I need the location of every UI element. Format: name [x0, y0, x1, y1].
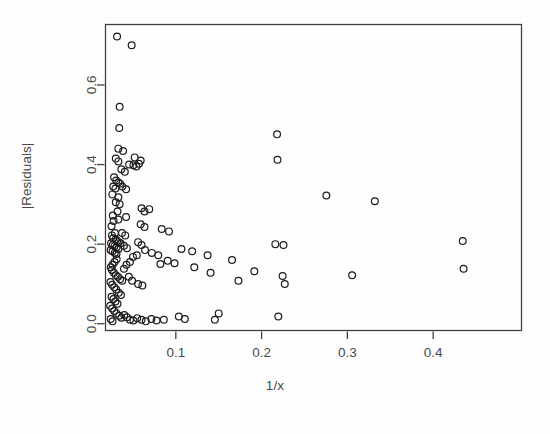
data-point — [279, 273, 286, 280]
data-point — [207, 269, 214, 276]
x-tick-label: 0.1 — [166, 345, 185, 360]
data-point — [323, 192, 330, 199]
data-point — [148, 250, 155, 257]
data-point — [160, 316, 167, 323]
data-point — [164, 257, 171, 264]
data-point — [157, 261, 164, 268]
y-axis-label-wrapper: |Residuals| — [14, 0, 38, 352]
data-point — [191, 264, 198, 271]
y-tick-label: 0.4 — [84, 155, 99, 174]
data-point — [139, 282, 146, 289]
data-point — [116, 125, 123, 132]
data-point — [178, 246, 185, 253]
data-point — [142, 247, 149, 254]
x-tick-label: 0.2 — [252, 345, 271, 360]
data-point — [158, 226, 165, 233]
data-point — [460, 265, 467, 272]
x-axis-label: 1/x — [0, 378, 550, 393]
y-tick-label: 0.2 — [84, 235, 99, 254]
x-axis: 0.10.20.30.4 — [166, 332, 443, 360]
data-point — [281, 281, 288, 288]
data-point — [251, 268, 258, 275]
data-point — [116, 103, 123, 110]
y-axis: 0.00.20.40.6 — [84, 76, 105, 334]
data-point — [166, 228, 173, 235]
data-point — [215, 310, 222, 317]
data-point — [204, 252, 211, 259]
data-points — [107, 33, 467, 325]
data-point — [181, 316, 188, 323]
data-point — [229, 257, 236, 264]
data-point — [272, 241, 279, 248]
chart-canvas: 0.10.20.30.4 0.00.20.40.6 — [0, 0, 550, 434]
data-point — [274, 156, 281, 163]
data-point — [171, 260, 178, 267]
data-point — [274, 131, 281, 138]
scatter-plot-figure: 0.10.20.30.4 0.00.20.40.6 1/x |Residuals… — [0, 0, 550, 434]
x-tick-label: 0.3 — [338, 345, 357, 360]
data-point — [211, 316, 218, 323]
data-point — [114, 33, 121, 40]
data-point — [123, 214, 130, 221]
data-point — [349, 272, 356, 279]
data-point — [138, 316, 145, 323]
plot-frame — [106, 25, 522, 331]
data-point — [189, 248, 196, 255]
data-point — [119, 277, 126, 284]
y-axis-label: |Residuals| — [19, 143, 34, 209]
data-point — [155, 252, 162, 259]
y-tick-label: 0.6 — [84, 76, 99, 95]
data-point — [275, 313, 282, 320]
data-point — [128, 42, 135, 49]
y-tick-label: 0.0 — [84, 314, 99, 333]
x-tick-label: 0.4 — [424, 345, 443, 360]
data-point — [235, 277, 242, 284]
data-point — [280, 242, 287, 249]
data-point — [371, 198, 378, 205]
data-point — [135, 281, 142, 288]
data-point — [459, 238, 466, 245]
